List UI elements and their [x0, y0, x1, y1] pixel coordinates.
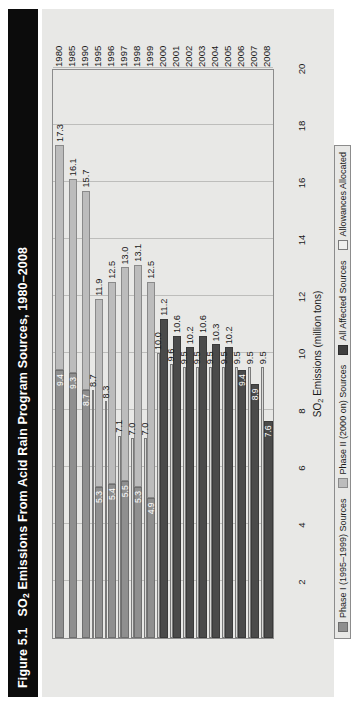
- value-tick-label: 16: [296, 178, 307, 189]
- bar-segment-phase2: [82, 191, 90, 391]
- bar-allowances-label: 7.1: [114, 420, 124, 433]
- legend-item-phase2: Phase II (2000 on) Sources: [338, 365, 348, 489]
- bar-segment-all-affected: [212, 344, 220, 638]
- bar-segment-allowances: [131, 439, 134, 639]
- category-tick-label: 2007: [248, 46, 259, 67]
- bar-value-label-phase1: 5.4: [107, 488, 117, 500]
- plot-area: 9.417.39.316.18.715.75.311.98.75.412.58.…: [52, 69, 274, 639]
- category-tick-label: 1999: [144, 46, 155, 67]
- bar-segment-phase1: 5.3: [95, 487, 103, 638]
- bar-segment-allowances: [157, 353, 160, 638]
- value-tick-label: 18: [296, 121, 307, 132]
- value-tick-label: 12: [296, 292, 307, 303]
- bar-segment-allowances: [170, 364, 173, 638]
- legend-label-phase1: Phase I (1995–1999) Sources: [338, 498, 348, 618]
- category-tick-label: 2000: [157, 46, 168, 67]
- bar-total-label: 10.2: [224, 326, 234, 344]
- chart-legend: Phase I (1995–1999) SourcesPhase II (200…: [334, 145, 351, 639]
- bar-total-label: 11.2: [159, 299, 169, 316]
- bar-value-label-all-affected: 8.9: [250, 388, 260, 400]
- value-tick-label: 14: [296, 235, 307, 246]
- bar-allowances-label: 10.0: [153, 332, 163, 350]
- bar-allowances-label: 9.5: [179, 351, 189, 364]
- bar-row: 5.513.0: [121, 70, 129, 638]
- bar-segment-all-affected: [225, 347, 233, 638]
- bar-total-label: 15.7: [81, 170, 91, 188]
- category-tick-label: 2002: [183, 46, 194, 67]
- bar-value-label-all-affected: 9.4: [237, 374, 247, 386]
- axis-title-so: SO: [312, 403, 323, 417]
- bar-value-label-phase1: 9.4: [55, 374, 65, 386]
- page-title: Figure 5.1SO2 Emissions From Acid Rain P…: [16, 247, 30, 697]
- bar-allowances-label: 9.5: [232, 351, 242, 364]
- bar-row: 5.313.1: [134, 70, 142, 638]
- legend-item-phase1: Phase I (1995–1999) Sources: [338, 498, 348, 632]
- category-tick-label: 1995: [92, 46, 103, 67]
- legend-label-allow: Allowances Allocated: [338, 152, 348, 237]
- bar-allowances-label: 9.5: [258, 351, 268, 364]
- bar-total-label: 10.6: [198, 315, 208, 333]
- bar-allowances-label: 7.0: [127, 423, 137, 436]
- bar-segment-phase2: [108, 282, 116, 484]
- category-tick-label: 1990: [79, 46, 90, 67]
- bar-value-label-phase1: 8.7: [81, 394, 91, 406]
- category-tick-label: 2008: [261, 46, 272, 67]
- bar-segment-allowances: [92, 390, 95, 638]
- legend-swatch-all: [338, 345, 348, 355]
- chart-panel: 9.417.39.316.18.715.75.311.98.75.412.58.…: [42, 9, 334, 697]
- category-tick-label: 2003: [196, 46, 207, 67]
- bar-allowances-label: 9.6: [166, 349, 176, 362]
- bar-total-label: 11.9: [94, 279, 104, 296]
- bar-segment-phase1: 5.3: [134, 487, 142, 638]
- bar-total-label: 16.1: [68, 158, 78, 176]
- bar-segment-phase1: 9.3: [69, 373, 77, 638]
- bar-allowances-label: 8.3: [101, 386, 111, 399]
- bar-segment-allowances: [144, 439, 147, 639]
- legend-label-all: All Affected Sources: [338, 260, 348, 340]
- bar-segment-all-affected: [186, 347, 194, 638]
- bar-segment-phase2: [55, 145, 63, 370]
- legend-label-phase2: Phase II (2000 on) Sources: [338, 365, 348, 475]
- bar-segment-allowances: [209, 367, 212, 638]
- bar-segment-phase1: 8.7: [82, 390, 90, 638]
- bar-total-label: 10.2: [185, 326, 195, 344]
- bar-segment-allowances: [222, 367, 225, 638]
- bar-segment-allowances: [248, 367, 251, 638]
- bar-row: 4.912.5: [147, 70, 155, 638]
- bar-segment-all-affected: 9.4: [238, 370, 246, 638]
- value-tick-label: 8: [296, 408, 307, 413]
- legend-swatch-phase1: [338, 622, 348, 632]
- category-tick-label: 2004: [209, 46, 220, 67]
- bar-total-label: 12.5: [146, 261, 156, 279]
- category-tick-label: 2005: [222, 46, 233, 67]
- value-axis-ticks: 2468101214161820: [296, 69, 310, 639]
- category-tick-label: 1998: [131, 46, 142, 67]
- bar-value-label-phase1: 9.3: [68, 377, 78, 389]
- bar-segment-all-affected: [199, 336, 207, 638]
- value-tick-label: 4: [296, 522, 307, 527]
- bar-segment-phase2: [147, 282, 155, 499]
- legend-swatch-allow: [338, 240, 348, 250]
- axis-title-subscript: 2: [316, 399, 325, 403]
- bar-segment-phase1: 5.4: [108, 484, 116, 638]
- bar-total-label: 17.3: [55, 124, 65, 142]
- value-axis-title: SO2 Emissions (million tons): [312, 69, 323, 639]
- bar-row: 9.316.1: [69, 70, 77, 638]
- bar-segment-phase2: [121, 268, 129, 482]
- bar-value-label-phase1: 5.3: [133, 491, 143, 503]
- bar-allowances-label: 7.0: [140, 423, 150, 436]
- category-tick-label: 1985: [66, 46, 77, 67]
- bar-segment-allowances: [105, 401, 108, 638]
- category-tick-label: 1980: [53, 46, 64, 67]
- bar-segment-phase1: 5.5: [121, 481, 129, 638]
- bar-segment-allowances: [118, 436, 121, 638]
- bar-value-label-phase1: 4.9: [146, 502, 156, 514]
- bar-allowances-label: 9.5: [192, 351, 202, 364]
- bar-segment-allowances: [235, 367, 238, 638]
- legend-item-allow: Allowances Allocated: [338, 152, 348, 251]
- bar-allowances-label: 9.5: [205, 351, 215, 364]
- bar-row: 8.715.7: [82, 70, 90, 638]
- bar-segment-all-affected: 8.9: [251, 384, 259, 638]
- category-tick-label: 1997: [118, 46, 129, 67]
